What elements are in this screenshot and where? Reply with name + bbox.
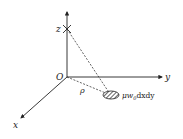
z-axis-label: z — [55, 24, 61, 34]
area-element-label: μw0dxdy — [122, 91, 155, 101]
x-axis — [21, 77, 67, 118]
x-axis-label: x — [13, 120, 18, 130]
origin-label: O — [56, 72, 64, 82]
y-axis-label: y — [164, 72, 171, 82]
rho-label: ρ — [79, 86, 85, 95]
dashed-line-rho — [67, 77, 108, 94]
dashed-line-z-to-element — [67, 29, 110, 94]
area-element-ellipse — [103, 91, 119, 99]
coordinate-diagram: z O y x ρ μw0dxdy — [0, 0, 183, 139]
